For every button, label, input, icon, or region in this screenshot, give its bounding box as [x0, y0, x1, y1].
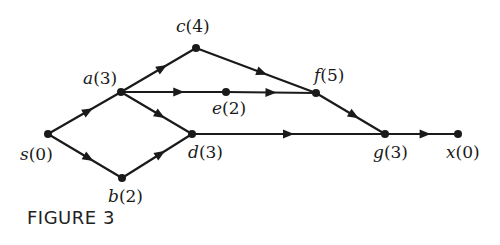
- node-label-f: f(5): [312, 65, 344, 85]
- node-c: [192, 44, 200, 52]
- figure-caption: FIGURE 3: [27, 207, 115, 228]
- node-label-a: a(3): [83, 68, 117, 88]
- node-label-s: s(0): [20, 144, 53, 164]
- edge-c-f: [196, 48, 316, 93]
- edge-a-f-part2-arrowhead: [265, 88, 276, 97]
- node-a: [117, 88, 125, 96]
- node-label-e: e(2): [212, 98, 246, 118]
- node-e: [222, 88, 230, 96]
- edge-a-f-part1-arrowhead: [173, 88, 184, 97]
- node-label-x: x(0): [446, 142, 480, 162]
- node-x: [454, 130, 462, 138]
- node-f: [312, 89, 320, 97]
- edge-c-f-arrowhead: [255, 67, 267, 75]
- node-g: [381, 130, 389, 138]
- edge-g-x-arrowhead: [420, 130, 431, 139]
- node-d: [188, 130, 196, 138]
- node-label-b: b(2): [108, 186, 143, 206]
- node-s: [44, 130, 52, 138]
- node-label-g: g(3): [373, 142, 408, 162]
- node-b: [118, 174, 126, 182]
- edge-d-g-arrowhead: [283, 130, 294, 139]
- node-label-c: c(4): [176, 16, 210, 36]
- node-label-d: d(3): [188, 142, 223, 162]
- edge-b-d-arrowhead: [153, 151, 165, 161]
